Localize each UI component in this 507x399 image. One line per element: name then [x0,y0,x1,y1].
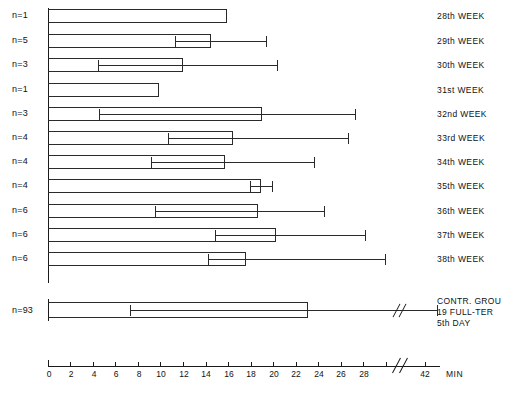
row-category-label: 31st WEEK [437,85,484,95]
error-cap-high [355,109,356,120]
row-category-label: 28th WEEK [437,11,485,21]
horizontal-bar-chart: n=1 28th WEEK n=5 29th WEEK n=3 30th WEE… [0,0,507,399]
control-group-label: CONTR. GROU 19 FULL-TER 5th DAY [437,296,501,329]
row-n-label: n=1 [12,10,28,20]
control-group-label-line-3: 5th DAY [437,318,501,329]
row-n-label: n=1 [12,84,28,94]
axis-tick-label: 24 [311,369,327,379]
row-n-label: n=5 [12,35,28,45]
error-cap-low [215,230,216,241]
axis-tick-label: 8 [133,369,145,379]
error-cap-low [250,181,251,192]
bar [48,83,159,97]
error-cap-low [155,206,156,217]
row-n-label: n=4 [12,180,28,190]
row-n-label: n=3 [12,59,28,69]
axis-tick [70,362,71,367]
axis-tick [160,362,161,367]
axis-tick [138,362,139,367]
value-axis-line [48,366,440,367]
row-n-label: n=6 [12,229,28,239]
row-category-label: 34th WEEK [437,157,485,167]
error-bar [168,138,348,139]
axis-tick-label: 18 [243,369,259,379]
axis-tick [183,362,184,367]
row-n-label: n=3 [12,108,28,118]
row-category-label: 35th WEEK [437,181,485,191]
axis-tick [341,362,342,367]
row-category-label: 30th WEEK [437,60,485,70]
error-bar [175,41,266,42]
axis-tick [363,362,364,367]
axis-tick [386,362,387,367]
error-cap-high [266,36,267,47]
axis-tick-label: 10 [153,369,169,379]
bar [48,9,227,23]
error-cap-low [98,60,99,71]
control-n-label: n=93 [12,305,33,315]
row-category-label: 36th WEEK [437,206,485,216]
axis-tick [273,362,274,367]
bar [48,179,261,193]
row-category-label: 33rd WEEK [437,133,485,143]
axis-tick [228,362,229,367]
error-bar [98,65,277,66]
error-cap-low [99,109,100,120]
error-cap-high [324,206,325,217]
axis-tick-label: 2 [65,369,77,379]
control-error-cap-low [130,305,131,316]
row-n-label: n=6 [12,253,28,263]
error-cap-low [208,254,209,265]
error-cap-high [348,133,349,144]
error-cap-high [277,60,278,71]
error-bar [215,235,365,236]
axis-tick-label: 6 [110,369,122,379]
axis-tick [251,362,252,367]
axis-tick-label: 20 [266,369,282,379]
error-bar [208,259,385,260]
error-cap-low [168,133,169,144]
error-cap-high [365,230,366,241]
axis-tick [206,362,207,367]
axis-tick-label: 28 [356,369,372,379]
row-category-label: 29th WEEK [437,36,485,46]
error-cap-high [385,254,386,265]
axis-unit-label: MIN [446,369,463,379]
axis-tick [93,362,94,367]
axis-tick-label: 26 [333,369,349,379]
axis-tick [115,362,116,367]
axis-tick-label: 14 [198,369,214,379]
control-error-bar [130,310,437,311]
axis-tick-label: 22 [288,369,304,379]
error-cap-low [175,36,176,47]
axis-tick-label: 12 [176,369,192,379]
error-cap-high [272,181,273,192]
axis-tick-label: 42 [417,369,433,379]
error-bar [250,186,272,187]
row-category-label: 37th WEEK [437,230,485,240]
row-n-label: n=4 [12,156,28,166]
axis-tick [318,362,319,367]
error-cap-high [314,157,315,168]
row-category-label: 32nd WEEK [437,109,487,119]
axis-tick-label: 4 [88,369,100,379]
error-cap-low [151,157,152,168]
axis-tick [48,360,49,367]
axis-tick [296,362,297,367]
row-n-label: n=6 [12,205,28,215]
error-bar [99,114,355,115]
control-group-label-line-1: CONTR. GROU [437,296,501,307]
error-bar [151,162,314,163]
axis-tick [425,362,426,367]
row-n-label: n=4 [12,132,28,142]
axis-tick-label: 0 [43,369,55,379]
error-bar [155,211,324,212]
axis-tick-label: 16 [221,369,237,379]
control-group-label-line-2: 19 FULL-TER [437,307,501,318]
row-category-label: 38th WEEK [437,254,485,264]
